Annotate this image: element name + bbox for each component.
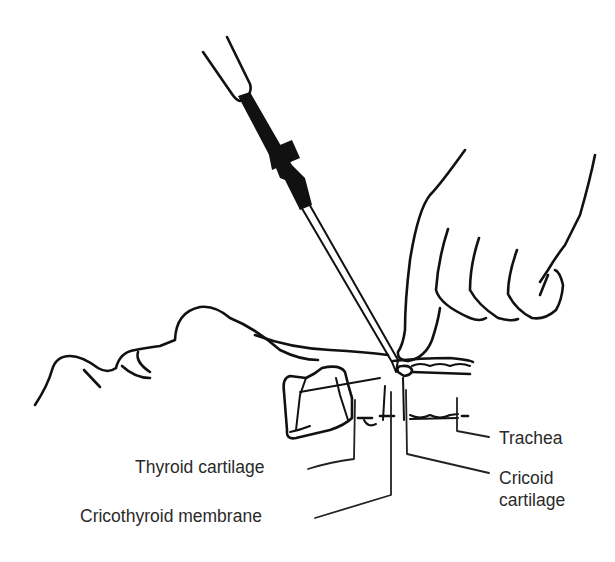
larynx-icon: [284, 364, 470, 438]
cricothyroid-membrane-label: Cricothyroid membrane: [80, 505, 262, 527]
cricoid-cartilage-label: Cricoid cartilage: [499, 467, 599, 511]
needle-icon: [203, 37, 398, 372]
leader-cricoid: [406, 390, 489, 473]
head-profile-icon: [35, 307, 473, 405]
thyroid-cartilage-label: Thyroid cartilage: [135, 456, 264, 478]
leader-lines: [308, 390, 489, 518]
trachea-label: Trachea: [499, 427, 563, 449]
leader-trachea: [457, 398, 489, 437]
hand-icon: [398, 150, 595, 361]
